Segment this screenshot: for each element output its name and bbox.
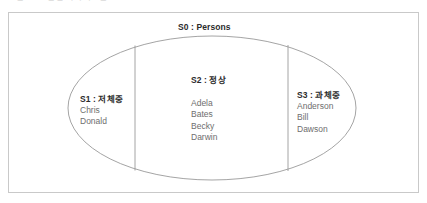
list-item: Dawson: [297, 124, 333, 135]
partition-label-s1: S1 : 저체중: [80, 92, 123, 104]
partition-members-s3: Anderson Bill Dawson: [297, 101, 333, 135]
universe-label: S0 : Persons: [178, 22, 231, 32]
partition-label-s2: S2 : 정상: [191, 73, 226, 85]
partition-label-s3: S3 : 과체중: [297, 88, 340, 100]
list-item: Chris: [80, 105, 107, 116]
partition-members-s2: Adela Bates Becky Darwin: [191, 98, 217, 144]
figure-screenshot: 그림 4-12 집합 다이어그램 S0 : Persons S1 : 저체중 C…: [0, 0, 427, 203]
partition-members-s1: Chris Donald: [80, 105, 107, 128]
list-item: Bill: [297, 112, 333, 123]
list-item: Adela: [191, 98, 217, 109]
list-item: Donald: [80, 116, 107, 127]
list-item: Darwin: [191, 132, 217, 143]
list-item: Bates: [191, 109, 217, 120]
list-item: Becky: [191, 121, 217, 132]
list-item: Anderson: [297, 101, 333, 112]
set-diagram-labels: S0 : Persons S1 : 저체중 Chris Donald S2 : …: [0, 0, 427, 203]
